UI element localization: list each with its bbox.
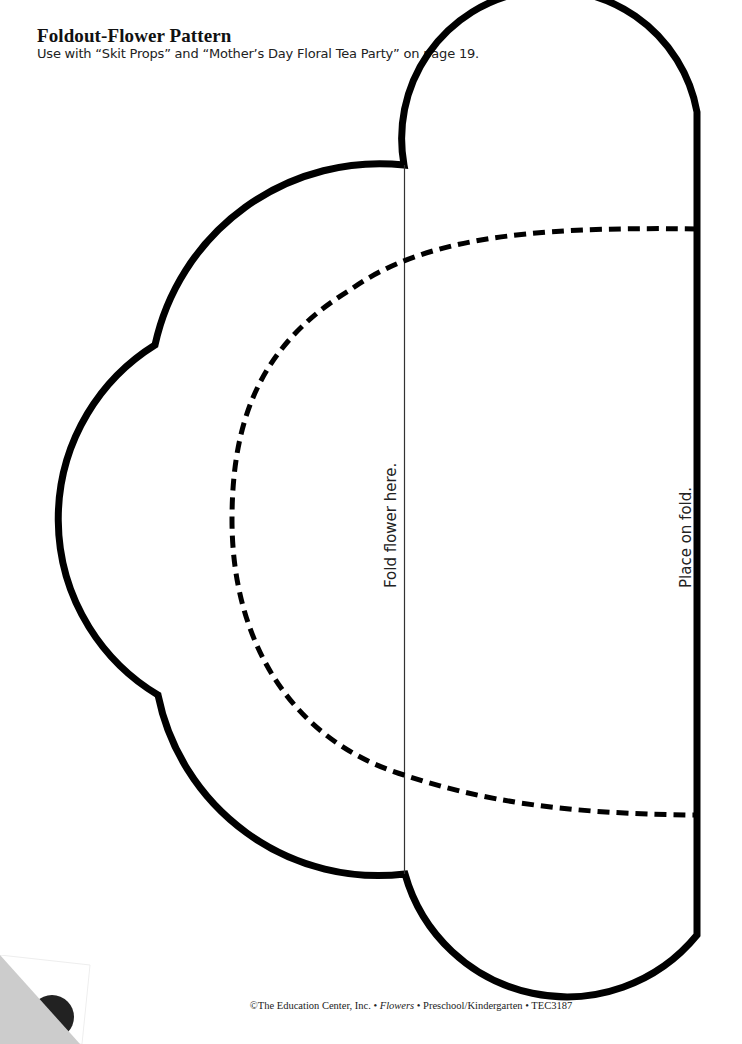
copyright-footer: ©The Education Center, Inc. • Flowers • …	[0, 1000, 742, 1011]
foldout-flower-pattern	[0, 0, 742, 1044]
place-on-fold-label: Place on fold.	[677, 487, 695, 588]
worksheet-page: Foldout-Flower Pattern Use with “Skit Pr…	[0, 0, 742, 1044]
footer-book-title: Flowers	[380, 1000, 414, 1011]
footer-copyright: ©The Education Center, Inc. •	[250, 1000, 380, 1011]
flower-outline	[58, 0, 697, 997]
footer-details: • Preschool/Kindergarten • TEC3187	[414, 1000, 572, 1011]
page-curl-corner	[0, 955, 100, 1044]
fold-flower-label: Fold flower here.	[382, 463, 400, 588]
dashed-cut-line	[232, 229, 697, 815]
